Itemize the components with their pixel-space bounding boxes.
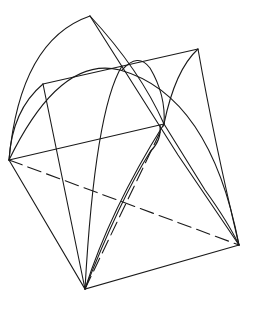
vault-diagram [0,0,259,309]
base-square [9,124,239,289]
upper-frame [9,49,239,289]
